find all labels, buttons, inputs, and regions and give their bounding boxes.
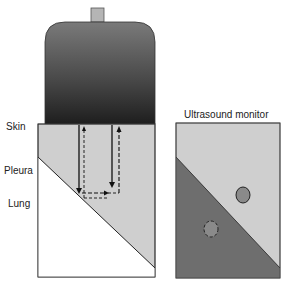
diagram-canvas: [0, 0, 287, 288]
probe-knob: [91, 8, 104, 22]
monitor-object-real: [236, 187, 250, 203]
label-pleura: Pleura: [4, 166, 33, 176]
label-skin: Skin: [6, 122, 25, 132]
ultrasound-probe: [45, 22, 155, 124]
monitor-object-mirror-artifact: [204, 221, 218, 237]
label-monitor-title: Ultrasound monitor: [184, 110, 268, 120]
label-lung: Lung: [8, 199, 30, 209]
